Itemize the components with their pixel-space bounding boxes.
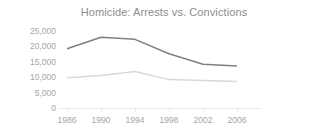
series-line-arrests [67,72,237,82]
series-line-convictions [67,37,237,66]
line-chart: Homicide: Arrests vs. Convictions 25,000… [0,0,328,138]
plot-area [0,0,328,138]
